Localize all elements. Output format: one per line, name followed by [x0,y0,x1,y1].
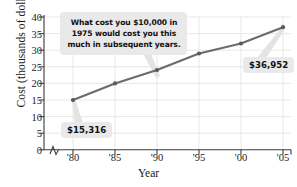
x-tick-80: '80 [55,152,91,163]
annotation-last-value: $36,952 [243,57,294,73]
data-point-1980 [71,98,75,102]
x-tick-95: '95 [181,152,217,163]
y-axis-ticks [39,17,44,150]
x-tick-90: '90 [139,152,175,163]
annotation-main-note: What cost you $10,000 in 1975 would cost… [60,12,187,55]
line-chart: Cost (thousands of dollars) 40 35 30 25 … [0,0,297,187]
annotation-first-value: $15,316 [61,122,112,138]
x-tick-00: '00 [223,152,259,163]
x-tick-85: '85 [97,152,133,163]
data-point-2000 [239,41,243,45]
data-point-1985 [113,81,117,85]
x-tick-05: '05 [265,152,297,163]
data-point-2005 [281,25,285,29]
data-point-1990 [155,68,159,72]
x-axis-title: Year [0,167,297,179]
data-point-1995 [197,51,201,55]
